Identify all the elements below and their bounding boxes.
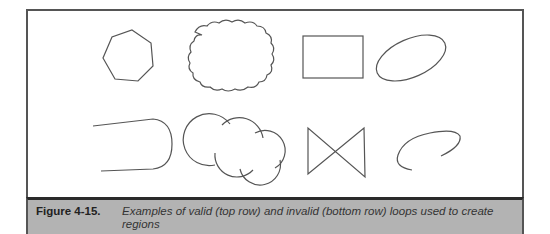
cloud-loop xyxy=(188,20,274,91)
figure-label: Figure 4-15. xyxy=(36,205,101,217)
rectangle-loop xyxy=(303,36,363,78)
figure-caption: Examples of valid (top row) and invalid … xyxy=(122,205,512,231)
valid-loops-row xyxy=(103,20,453,91)
figure-caption-bar: Figure 4-15. Examples of valid (top row)… xyxy=(26,197,524,234)
ellipse-loop xyxy=(369,26,452,91)
invalid-loops-row xyxy=(93,114,460,185)
open-ellipse-loop xyxy=(397,131,460,170)
open-u-loop xyxy=(93,119,172,171)
heptagon-loop xyxy=(103,30,153,81)
overlapping-circles-loop xyxy=(183,114,285,185)
bowtie-loop xyxy=(308,128,365,177)
